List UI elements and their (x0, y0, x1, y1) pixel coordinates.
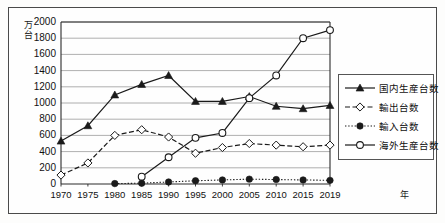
legend-label: 海外生産台数 (379, 140, 439, 151)
legend-item-4[interactable]: 海外生産台数 (343, 137, 433, 155)
data-point-marker (219, 130, 226, 137)
data-point-marker (299, 143, 307, 151)
data-point-marker (246, 95, 253, 102)
data-point-marker (57, 171, 65, 179)
series-4 (138, 27, 333, 180)
legend-item-1[interactable]: 国内生産台数 (343, 80, 433, 98)
data-point-marker (165, 133, 173, 141)
data-point-marker (138, 180, 144, 186)
data-point-marker (112, 180, 118, 186)
data-point-marker (165, 179, 171, 185)
legend-swatch (343, 99, 377, 115)
data-point-marker (138, 173, 145, 180)
legend-swatch (343, 118, 377, 134)
data-point-marker (300, 177, 306, 183)
data-point-marker (273, 72, 280, 79)
legend-marker (356, 103, 364, 111)
data-point-marker (327, 177, 333, 183)
series-line (61, 75, 330, 141)
legend-label: 国内生産台数 (379, 83, 439, 94)
legend-item-3[interactable]: 輸入台数 (343, 118, 433, 136)
data-point-marker (218, 143, 226, 151)
data-point-marker (165, 72, 173, 79)
data-point-marker (245, 139, 253, 147)
data-point-marker (192, 134, 199, 141)
legend-marker (357, 123, 363, 129)
data-series-layer (57, 27, 334, 187)
chart-figure: 万 台 年 0200400600800100012001400160018002… (0, 0, 445, 223)
legend-marker (357, 142, 364, 149)
data-point-marker (326, 141, 334, 149)
data-point-marker (326, 102, 334, 109)
data-point-marker (192, 178, 198, 184)
chart-legend: 国内生産台数輸出台数輸入台数海外生産台数 (338, 74, 434, 160)
data-point-marker (57, 137, 65, 144)
legend-swatch (343, 137, 377, 153)
data-point-marker (273, 176, 279, 182)
data-point-marker (219, 177, 225, 183)
data-point-marker (165, 154, 172, 161)
legend-swatch (343, 80, 377, 96)
data-point-marker (327, 27, 334, 34)
series-1 (57, 72, 334, 145)
data-point-marker (246, 176, 252, 182)
data-point-marker (300, 35, 307, 42)
legend-label: 輸入台数 (379, 121, 419, 132)
series-2 (57, 126, 334, 180)
legend-label: 輸出台数 (379, 102, 419, 113)
legend-item-2[interactable]: 輸出台数 (343, 99, 433, 117)
data-point-marker (191, 149, 199, 157)
data-point-marker (138, 126, 146, 134)
data-point-marker (272, 141, 280, 149)
